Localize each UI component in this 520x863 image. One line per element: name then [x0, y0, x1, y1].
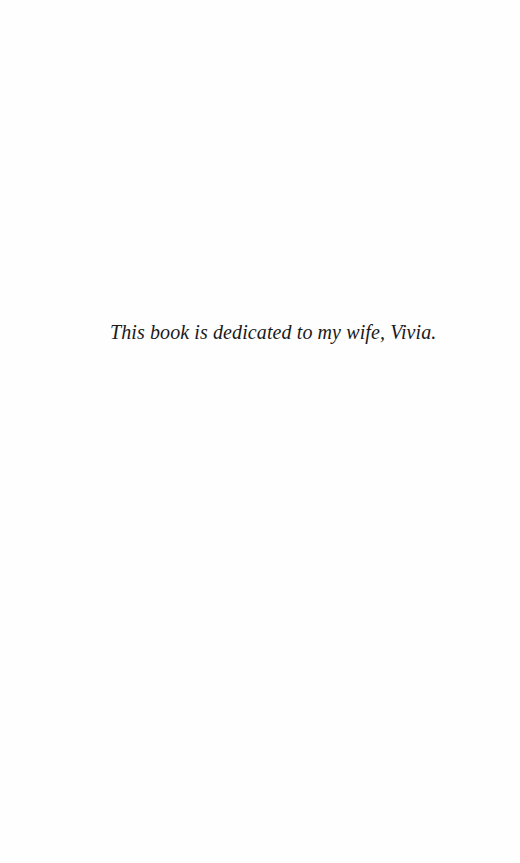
book-page: This book is dedicated to my wife, Vivia…: [0, 0, 520, 863]
dedication-text: This book is dedicated to my wife, Vivia…: [110, 319, 436, 345]
